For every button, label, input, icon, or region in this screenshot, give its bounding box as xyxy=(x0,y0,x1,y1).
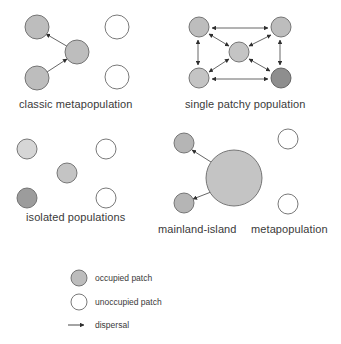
dispersal-arrow xyxy=(249,59,270,71)
unoccupied-patch xyxy=(278,129,298,149)
isolated-populations-panel xyxy=(17,139,116,208)
legend-dispersal-label: dispersal xyxy=(95,320,129,330)
unoccupied-patch xyxy=(278,194,298,214)
legend-unoccupied-label: unoccupied patch xyxy=(95,297,162,307)
mainland-island-panel xyxy=(174,129,298,214)
dispersal-arrow xyxy=(193,192,211,199)
occupied-patch xyxy=(174,193,194,213)
mainland-patch xyxy=(206,150,262,206)
classic-metapopulation-label: classic metapopulation xyxy=(19,98,132,110)
dispersal-arrow xyxy=(209,59,229,72)
occupied-patch xyxy=(271,17,291,37)
legend-unoccupied-icon xyxy=(71,294,87,310)
unoccupied-patch xyxy=(96,139,116,159)
occupied-patch-dark xyxy=(271,68,291,88)
metapopulation-diagram xyxy=(0,0,341,344)
occupied-patch xyxy=(25,66,49,90)
occupied-patch xyxy=(189,17,209,37)
classic-metapopulation-panel xyxy=(25,15,129,90)
dispersal-arrow xyxy=(47,59,67,72)
unoccupied-patch xyxy=(105,15,129,39)
occupied-patch-light xyxy=(17,139,37,159)
unoccupied-patch xyxy=(105,65,129,89)
occupied-patch xyxy=(229,42,249,62)
occupied-patch-dark xyxy=(17,188,37,208)
single-patchy-population-panel xyxy=(189,17,291,88)
occupied-patch xyxy=(25,15,49,39)
single-patchy-population-label: single patchy population xyxy=(185,98,305,110)
metapopulation-label: metapopulation xyxy=(251,223,328,235)
dispersal-arrow xyxy=(192,150,211,162)
occupied-patch xyxy=(57,163,77,183)
legend-occupied-label: occupied patch xyxy=(95,273,152,283)
unoccupied-patch xyxy=(96,188,116,208)
dispersal-arrow xyxy=(249,35,271,46)
isolated-populations-label: isolated populations xyxy=(26,211,125,223)
legend-occupied-icon xyxy=(71,270,87,286)
mainland-island-label: mainland-island xyxy=(158,223,237,235)
occupied-patch xyxy=(65,40,89,64)
dispersal-arrow xyxy=(209,34,229,46)
occupied-patch xyxy=(189,68,209,88)
legend-symbols xyxy=(68,270,87,325)
occupied-patch xyxy=(174,133,194,153)
